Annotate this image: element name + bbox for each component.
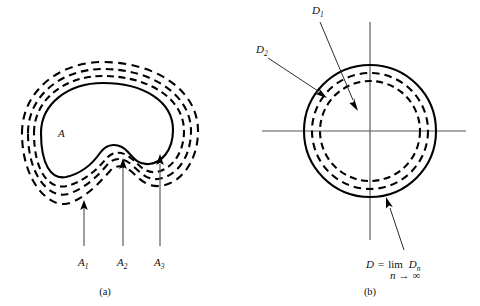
arrow-a3	[156, 154, 164, 246]
panel-b-group: D1 D2 D=limDn n→∞ (b)	[255, 4, 466, 298]
arrow-a1	[80, 200, 88, 246]
leader-d2	[268, 58, 327, 98]
label-a1: A1	[77, 256, 88, 271]
panel-a-group: A A1 A2 A3	[22, 62, 198, 298]
leader-d2-line	[268, 58, 318, 91]
label-a3: A3	[153, 256, 165, 271]
leader-d-limit-head	[386, 197, 393, 209]
caption-panel-b: (b)	[364, 286, 377, 298]
leader-d1-head	[349, 98, 358, 111]
label-a2: A2	[116, 256, 128, 271]
figure-root: A A1 A2 A3	[0, 0, 480, 306]
caption-panel-a: (a)	[99, 286, 111, 298]
dashed-contour-inner	[34, 76, 184, 187]
label-d1: D1	[311, 4, 324, 19]
leader-d1-line	[320, 22, 353, 100]
leader-d-limit	[386, 197, 404, 250]
arrow-a3-head	[156, 154, 164, 165]
dashed-contour-middle	[28, 69, 191, 195]
region-a-label: A	[57, 127, 65, 139]
leader-d-limit-line	[390, 208, 404, 250]
label-d2: D2	[255, 43, 268, 58]
limit-formula-under: n→∞	[390, 269, 421, 281]
figure-svg: A A1 A2 A3	[0, 0, 480, 306]
arrow-a2	[119, 158, 127, 246]
limit-formula: D=limDn n→∞	[365, 258, 421, 281]
